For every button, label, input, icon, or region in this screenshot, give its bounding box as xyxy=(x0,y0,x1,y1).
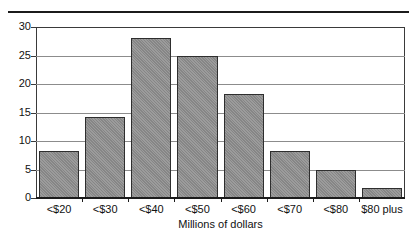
x-axis-tick-mark xyxy=(174,198,175,202)
top-rule-divider xyxy=(8,11,409,13)
x-axis-tick-label: <$40 xyxy=(128,203,174,216)
bar-series xyxy=(36,27,405,198)
bar xyxy=(177,56,217,199)
x-axis-tick-mark xyxy=(313,198,314,202)
x-axis-tick-label: <$60 xyxy=(221,203,267,216)
x-axis-tick-mark xyxy=(82,198,83,202)
y-axis-tick-label: 0 xyxy=(7,192,31,203)
y-axis-tick-mark xyxy=(31,113,36,114)
x-axis-tick-label: <$20 xyxy=(36,203,82,216)
bar xyxy=(224,94,264,198)
x-axis-tick-label: <$30 xyxy=(82,203,128,216)
bar xyxy=(39,151,79,198)
y-axis-tick-label: 25 xyxy=(7,50,31,61)
y-axis-tick-label: 15 xyxy=(7,107,31,118)
x-axis-tick-mark xyxy=(359,198,360,202)
y-axis-tick-mark xyxy=(31,141,36,142)
bar xyxy=(316,170,356,199)
x-axis-tick-label: <$80 xyxy=(313,203,359,216)
x-axis-tick-mark xyxy=(128,198,129,202)
x-axis-tick-label: <$70 xyxy=(267,203,313,216)
y-axis-tick-mark xyxy=(31,56,36,57)
x-axis-tick-mark xyxy=(221,198,222,202)
x-axis-title: Millions of dollars xyxy=(36,218,405,231)
bar xyxy=(85,117,125,198)
y-axis-tick-label: 5 xyxy=(7,164,31,175)
y-axis-tick-mark xyxy=(31,198,36,199)
y-axis-tick-label: 30 xyxy=(7,21,31,32)
y-axis-tick-labels: 051015202530 xyxy=(0,0,31,243)
y-axis-tick-label: 20 xyxy=(7,78,31,89)
y-axis-tick-mark xyxy=(31,27,36,28)
x-axis-tick-label: <$50 xyxy=(174,203,220,216)
x-axis-tick-label: $80 plus xyxy=(359,203,405,216)
bar xyxy=(131,38,171,198)
y-axis-tick-label: 10 xyxy=(7,135,31,146)
y-axis-tick-mark xyxy=(31,84,36,85)
x-axis-tick-mark xyxy=(267,198,268,202)
figure: 051015202530 <$20<$30<$40<$50<$60<$70<$8… xyxy=(0,0,417,243)
bar xyxy=(270,151,310,198)
y-axis-tick-mark xyxy=(31,170,36,171)
